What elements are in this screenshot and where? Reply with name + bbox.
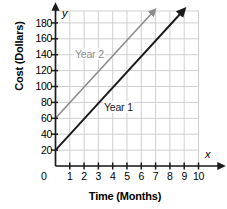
y-axis-variable-label: y — [62, 7, 68, 19]
y-axis-ticks — [51, 23, 58, 150]
series-label-year1: Year 1 — [103, 101, 134, 113]
grid-vertical — [56, 11, 199, 166]
chart-container: y x 180 160 140 120 100 80 60 40 20 0 1 … — [0, 0, 227, 209]
y-tick-label: 40 — [18, 128, 52, 140]
series-line-year1 — [56, 13, 182, 150]
y-axis-title: Cost (Dollars) — [13, 0, 25, 121]
series-label-year2: Year 2 — [74, 48, 105, 60]
x-axis-tick-labels: 1 2 3 4 5 6 7 8 9 10 — [0, 170, 227, 186]
y-tick-label: 20 — [18, 144, 52, 156]
x-axis-title: Time (Months) — [40, 190, 210, 202]
x-tick-label: 10 — [189, 170, 209, 182]
x-axis-variable-label: x — [205, 148, 211, 160]
